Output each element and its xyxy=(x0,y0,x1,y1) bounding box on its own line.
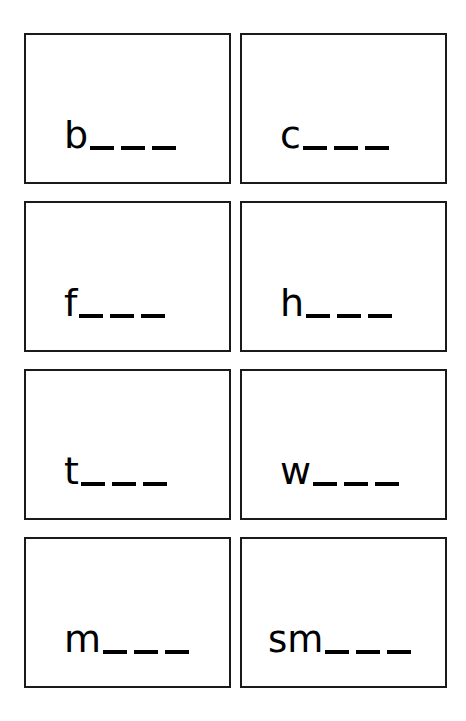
card-stem-letter: f xyxy=(64,284,77,322)
word-card[interactable]: sm xyxy=(240,537,447,688)
word-card[interactable]: h xyxy=(240,201,447,352)
blank-line xyxy=(337,314,361,318)
card-stem-letter: h xyxy=(280,284,304,322)
blank-line xyxy=(365,146,389,150)
card-stem-letter: sm xyxy=(268,621,323,658)
blank-line xyxy=(165,650,189,654)
blank-line xyxy=(368,314,392,318)
card-stem-letter: b xyxy=(64,116,88,154)
card-blanks xyxy=(313,482,399,490)
card-text: sm xyxy=(268,621,411,658)
blank-line xyxy=(143,482,167,486)
card-blanks xyxy=(79,314,165,322)
card-stem-letter: m xyxy=(64,620,101,658)
word-card[interactable]: f xyxy=(24,201,231,352)
card-grid: b c f xyxy=(24,33,443,687)
blank-line xyxy=(344,482,368,486)
word-card[interactable]: t xyxy=(24,369,231,520)
blank-line xyxy=(313,482,337,486)
card-text: h xyxy=(280,284,392,322)
blank-line xyxy=(141,314,165,318)
blank-line xyxy=(303,146,327,150)
card-stem-letter: t xyxy=(64,452,79,490)
word-card[interactable]: w xyxy=(240,369,447,520)
blank-line xyxy=(134,650,158,654)
card-stem-letter: c xyxy=(280,116,301,154)
word-card[interactable]: b xyxy=(24,33,231,184)
card-text: b xyxy=(64,116,176,154)
blank-line xyxy=(356,650,380,654)
blank-line xyxy=(325,650,349,654)
word-card[interactable]: m xyxy=(24,537,231,688)
blank-line xyxy=(387,650,411,654)
blank-line xyxy=(81,482,105,486)
card-blanks xyxy=(303,146,389,154)
card-blanks xyxy=(103,650,189,658)
card-blanks xyxy=(81,482,167,490)
blank-line xyxy=(306,314,330,318)
blank-line xyxy=(110,314,134,318)
card-text: c xyxy=(280,116,389,154)
blank-line xyxy=(375,482,399,486)
blank-line xyxy=(103,650,127,654)
card-blanks xyxy=(90,146,176,154)
card-blanks xyxy=(325,650,411,658)
card-text: m xyxy=(64,620,189,658)
word-card[interactable]: c xyxy=(240,33,447,184)
card-text: t xyxy=(64,452,167,490)
blank-line xyxy=(79,314,103,318)
card-text: f xyxy=(64,284,165,322)
worksheet-page: b c f xyxy=(0,0,466,721)
blank-line xyxy=(90,146,114,150)
blank-line xyxy=(152,146,176,150)
card-blanks xyxy=(306,314,392,322)
card-stem-letter: w xyxy=(280,452,311,490)
blank-line xyxy=(334,146,358,150)
card-text: w xyxy=(280,452,399,490)
blank-line xyxy=(112,482,136,486)
blank-line xyxy=(121,146,145,150)
